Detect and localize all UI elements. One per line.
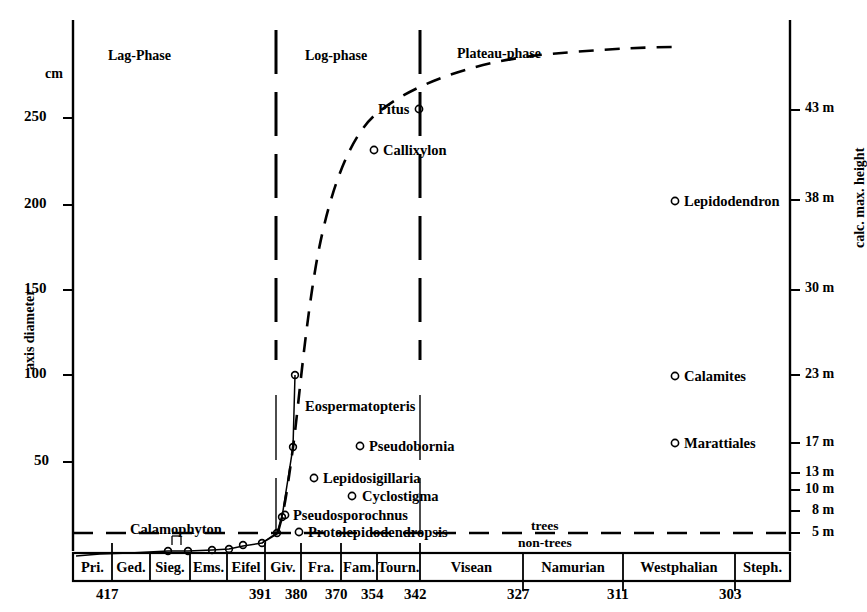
species-label-marattiales: Marattiales — [684, 435, 756, 452]
sigmoid-envelope-curve — [278, 47, 678, 532]
left-tick-label-50: 50 — [34, 452, 49, 469]
right-axis-title: calc. max. height — [852, 148, 867, 248]
phase-label-plateau: Plateau-phase — [457, 46, 541, 62]
left-tick-label-250: 250 — [24, 108, 47, 125]
species-label-eospermatopteris: Eospermatopteris — [305, 398, 415, 415]
time-tick-label-311: 311 — [607, 586, 629, 603]
time-tick-label-342: 342 — [404, 586, 427, 603]
phase-label-log: Log-phase — [305, 48, 367, 64]
left-tick-label-200: 200 — [24, 195, 47, 212]
threshold-label-trees: trees — [531, 518, 558, 534]
stage-cell-pri[interactable]: Pri. — [73, 559, 112, 576]
stage-cell-steph[interactable]: Steph. — [735, 559, 790, 576]
stage-cell-ems[interactable]: Ems. — [190, 559, 227, 576]
left-axis-unit: cm — [45, 66, 63, 82]
species-label-pseudosporochnus: Pseudosporochnus — [293, 507, 408, 524]
right-tick-label-8m: 8 m — [812, 502, 834, 518]
stage-cell-fam[interactable]: Fam. — [341, 559, 377, 576]
stage-cell-giv[interactable]: Giv. — [265, 559, 301, 576]
right-tick-label-17m: 17 m — [805, 434, 834, 450]
stage-cell-ged[interactable]: Ged. — [112, 559, 150, 576]
stage-cell-namurian[interactable]: Namurian — [523, 559, 623, 576]
threshold-label-non-trees: non-trees — [518, 535, 572, 551]
right-tick-label-30m: 30 m — [805, 280, 834, 296]
right-tick-label-23m: 23 m — [805, 366, 834, 382]
species-label-callixylon: Callixylon — [383, 142, 447, 159]
stage-cell-eifel[interactable]: Eifel — [227, 559, 265, 576]
species-label-protolepidodendropsis: Protolepidodendropsis — [308, 524, 448, 541]
time-tick-label-354: 354 — [361, 586, 384, 603]
time-tick-label-303: 303 — [719, 586, 742, 603]
time-tick-label-370: 370 — [325, 586, 348, 603]
left-tick-label-150: 150 — [24, 280, 47, 297]
right-tick-label-5m: 5 m — [812, 524, 834, 540]
time-tick-label-417: 417 — [96, 586, 119, 603]
species-label-calamophyton: Calamophyton — [130, 521, 222, 538]
time-tick-label-391: 391 — [249, 586, 272, 603]
left-tick-label-100: 100 — [24, 365, 47, 382]
species-label-lepidodendron: Lepidodendron — [684, 193, 780, 210]
right-tick-marks — [790, 110, 800, 533]
chart-canvas: cm axis diameter 250 200 150 100 50 calc… — [0, 0, 867, 612]
species-label-pseudobornia: Pseudobornia — [369, 438, 454, 455]
left-tick-marks — [63, 118, 73, 462]
stage-cell-fra[interactable]: Fra. — [301, 559, 341, 576]
species-label-calamites: Calamites — [684, 368, 746, 385]
stage-cell-sieg[interactable]: Sieg. — [150, 559, 190, 576]
species-label-pitus: Pitus — [378, 101, 409, 118]
right-tick-label-13m: 13 m — [805, 464, 834, 480]
time-tick-label-380: 380 — [285, 586, 308, 603]
stage-cell-westphalian[interactable]: Westphalian — [623, 559, 735, 576]
stage-cell-tourn[interactable]: Tourn. — [377, 559, 420, 576]
right-tick-label-38m: 38 m — [805, 190, 834, 206]
right-tick-label-43m: 43 m — [805, 100, 834, 116]
phase-label-lag: Lag-Phase — [108, 48, 171, 64]
right-tick-label-10m: 10 m — [805, 481, 834, 497]
species-label-cyclostigma: Cyclostigma — [362, 488, 439, 505]
left-axis-title: axis diameter — [22, 290, 38, 370]
stage-cell-visean[interactable]: Visean — [420, 559, 523, 576]
species-label-lepidosigillaria: Lepidosigillaria — [323, 470, 421, 487]
time-tick-label-327: 327 — [507, 586, 530, 603]
